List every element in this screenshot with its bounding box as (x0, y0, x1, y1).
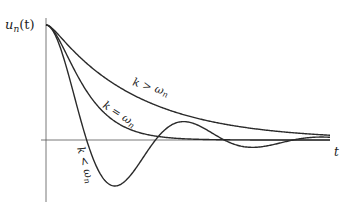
label-underdamped: k < ωn (73, 145, 97, 184)
damping-chart: un(t) t k > ωn k = ωn k < ωn (0, 0, 350, 210)
curve-critically-damped (46, 25, 330, 140)
curve-overdamped (46, 25, 330, 135)
x-axis-label: t (334, 145, 339, 159)
y-axis-label: un(t) (5, 17, 35, 34)
